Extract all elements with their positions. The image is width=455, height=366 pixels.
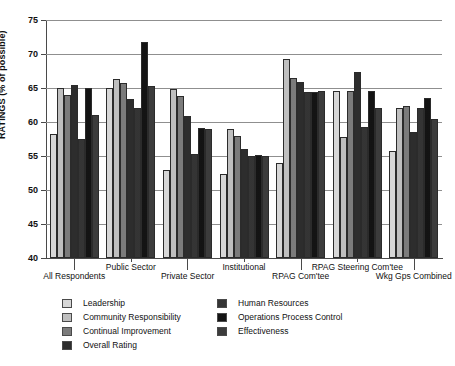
bar: [234, 136, 241, 258]
bar: [71, 85, 78, 258]
legend-label: Human Resources: [238, 299, 308, 308]
legend-label: Effectiveness: [238, 327, 288, 336]
y-tick-label-65: 65: [28, 84, 38, 93]
bar: [389, 151, 396, 258]
legend-item: Effectiveness: [217, 324, 342, 338]
category-label: All Respondents: [43, 272, 105, 281]
bar: [304, 92, 311, 258]
bar: [92, 115, 99, 258]
bar: [361, 127, 368, 258]
bar: [134, 108, 141, 258]
category-tick: [414, 258, 415, 270]
bar: [205, 129, 212, 258]
y-tick-label-75: 75: [28, 16, 38, 25]
bar: [177, 96, 184, 258]
legend-swatch-icon: [62, 327, 72, 336]
bar: [64, 95, 71, 258]
bar: [368, 91, 375, 258]
bar: [318, 91, 325, 258]
bar: [113, 79, 120, 258]
y-tick-label-50: 50: [28, 186, 38, 195]
category-label: Public Sector: [106, 263, 156, 272]
legend-swatch-icon: [217, 313, 227, 322]
bar: [191, 154, 198, 258]
y-axis-title: RATINGS (% of possible): [0, 30, 7, 139]
legend-item: Human Resources: [217, 296, 342, 310]
bar: [50, 134, 57, 258]
bar: [311, 92, 318, 258]
bar: [127, 99, 134, 258]
bar-group: [389, 20, 438, 258]
bars-row: [163, 20, 212, 258]
bar: [410, 132, 417, 258]
bar: [396, 108, 403, 258]
legend-swatch-icon: [217, 299, 227, 308]
legend-label: Leadership: [83, 299, 125, 308]
plot-area: 4045505560657075: [46, 20, 442, 258]
y-tick-75: [41, 20, 46, 21]
bar: [403, 106, 410, 258]
legend-swatch-icon: [62, 313, 72, 322]
y-tick-label-70: 70: [28, 50, 38, 59]
bar: [163, 170, 170, 258]
bar-group: [50, 20, 99, 258]
category-tick: [301, 258, 302, 270]
bar: [431, 119, 438, 258]
bar: [120, 83, 127, 258]
category-tick: [74, 258, 75, 270]
bar: [417, 108, 424, 258]
y-tick-40: [41, 258, 46, 259]
bar: [141, 42, 148, 258]
bar: [290, 78, 297, 258]
bar: [276, 163, 283, 258]
chart-legend: LeadershipCommunity ResponsibilityContin…: [62, 296, 432, 358]
legend-item: Community Responsibility: [62, 310, 181, 324]
legend-swatch-icon: [62, 341, 72, 350]
bar: [241, 149, 248, 258]
category-label: Private Sector: [161, 272, 214, 281]
bar: [57, 88, 64, 258]
bar: [184, 116, 191, 258]
bar: [375, 108, 382, 258]
bars-row: [50, 20, 99, 258]
legend-item: Operations Process Control: [217, 310, 342, 324]
bar: [170, 89, 177, 258]
bars-row: [220, 20, 269, 258]
bar: [85, 88, 92, 258]
bar: [354, 72, 361, 258]
legend-item: Continual Improvement: [62, 324, 181, 338]
bar-group: [163, 20, 212, 258]
bars-row: [106, 20, 155, 258]
category-tick: [187, 258, 188, 270]
bar: [424, 98, 431, 258]
legend-label: Overall Rating: [83, 341, 137, 350]
bar-group: [220, 20, 269, 258]
bar-group: [333, 20, 382, 258]
category-label: RPAG Com'tee: [272, 272, 329, 281]
legend-column-left: LeadershipCommunity ResponsibilityContin…: [62, 296, 181, 352]
y-tick-label-45: 45: [28, 220, 38, 229]
category-label: Institutional: [223, 263, 266, 272]
legend-label: Operations Process Control: [238, 313, 342, 322]
bar: [333, 91, 340, 258]
bar: [227, 129, 234, 258]
bars-row: [276, 20, 325, 258]
legend-column-right: Human ResourcesOperations Process Contro…: [217, 296, 342, 338]
y-tick-55: [41, 156, 46, 157]
bar-group: [106, 20, 155, 258]
bar: [347, 91, 354, 258]
bar: [106, 88, 113, 258]
bars-row: [333, 20, 382, 258]
bar-group: [276, 20, 325, 258]
bar: [78, 139, 85, 258]
bar: [220, 174, 227, 258]
legend-item: Leadership: [62, 296, 181, 310]
y-tick-45: [41, 224, 46, 225]
bar: [198, 128, 205, 258]
legend-swatch-icon: [62, 299, 72, 308]
y-tick-65: [41, 88, 46, 89]
bar: [148, 86, 155, 258]
bar: [248, 156, 255, 258]
category-label: Wkg Gps Combined: [376, 272, 452, 281]
legend-label: Community Responsibility: [83, 313, 181, 322]
